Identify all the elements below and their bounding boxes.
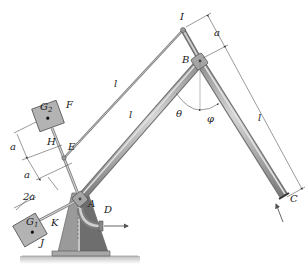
dim-label-upper-rod-l: l bbox=[114, 78, 117, 89]
dim-label-rod-bc-l: l bbox=[258, 112, 261, 123]
dim-label-main-arm-l: l bbox=[129, 109, 132, 120]
label-j: J bbox=[38, 237, 45, 248]
label-k: K bbox=[50, 217, 59, 228]
mechanism-diagram: I B A C D E F H J K G2 G1 θ φ l l l a a … bbox=[0, 0, 308, 265]
upper-link-rod bbox=[64, 30, 183, 158]
dim-label-upper-a: a bbox=[10, 141, 16, 152]
joint-e bbox=[62, 156, 66, 160]
dim-label-lower-a: a bbox=[24, 169, 30, 180]
dim-label-ib-a: a bbox=[214, 27, 220, 38]
dim-label-2a: 2a bbox=[22, 191, 35, 202]
ground bbox=[20, 256, 140, 264]
label-i: I bbox=[179, 11, 185, 22]
main-arm-ab bbox=[80, 62, 200, 199]
label-a: A bbox=[87, 198, 95, 209]
counterweight-arm-upper bbox=[52, 128, 80, 199]
label-phi: φ bbox=[207, 113, 214, 124]
label-b: B bbox=[181, 54, 189, 65]
dimension-right bbox=[186, 13, 305, 197]
force-arrow-c bbox=[276, 204, 283, 222]
label-h: H bbox=[46, 136, 56, 147]
counterweight-block-g2 bbox=[32, 100, 65, 131]
label-theta: θ bbox=[176, 108, 182, 119]
label-e: E bbox=[67, 141, 76, 152]
label-c: C bbox=[290, 193, 298, 204]
label-f: F bbox=[65, 99, 74, 110]
label-d: D bbox=[103, 204, 112, 215]
